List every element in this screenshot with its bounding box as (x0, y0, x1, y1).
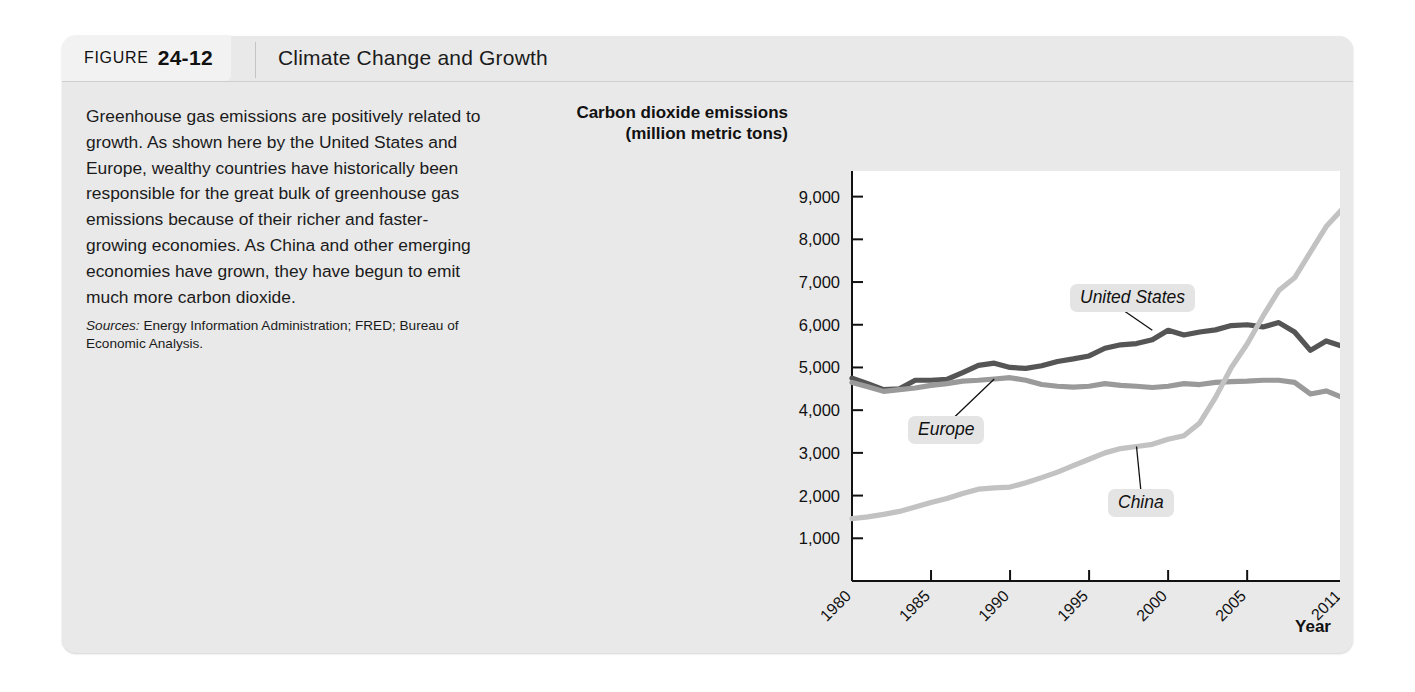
figure-number-tab: FIGURE 24-12 (62, 35, 231, 81)
y-axis-tick-label: 4,000 (799, 401, 840, 419)
y-axis-tick-label: 7,000 (799, 273, 840, 291)
x-axis-tick-label: 2005 (1212, 587, 1249, 624)
figure-tab-word: FIGURE (84, 49, 149, 67)
x-axis-tick-label: 1980 (817, 587, 854, 624)
x-axis-title: Year (1295, 617, 1331, 637)
series-label-europe: Europe (908, 416, 984, 444)
line-chart-svg: 9,0008,0007,0006,0005,0004,0003,0002,000… (510, 94, 1340, 639)
y-axis-tick-label: 5,000 (799, 358, 840, 376)
plot-background (852, 171, 1340, 581)
figure-panel: FIGURE 24-12 Climate Change and Growth G… (62, 36, 1353, 653)
caption-sources: Sources: Energy Information Administrati… (86, 317, 486, 353)
figure-caption: Greenhouse gas emissions are positively … (86, 104, 486, 353)
figure-title: Climate Change and Growth (278, 46, 548, 70)
x-axis-tick-label: 1990 (975, 587, 1012, 624)
y-axis-tick-label: 8,000 (799, 230, 840, 248)
series-label-china: China (1108, 489, 1174, 517)
series-label-united-states: United States (1070, 284, 1195, 312)
y-axis-tick-label: 2,000 (799, 487, 840, 505)
y-axis-tick-label: 3,000 (799, 444, 840, 462)
y-axis-tick-label: 6,000 (799, 316, 840, 334)
caption-body-text: Greenhouse gas emissions are positively … (86, 104, 486, 310)
x-axis-tick-label: 1995 (1054, 587, 1091, 624)
sources-text: Energy Information Administration; FRED;… (86, 318, 459, 351)
x-axis-tick-label: 1985 (896, 587, 933, 624)
sources-label: Sources: (86, 318, 140, 333)
x-axis-tick-label: 2000 (1133, 587, 1170, 624)
y-axis-tick-label: 9,000 (799, 188, 840, 206)
chart-container: Carbon dioxide emissions (million metric… (510, 94, 1340, 639)
figure-tab-number: 24-12 (158, 46, 213, 70)
header-divider (62, 81, 1353, 82)
y-axis-tick-label: 1,000 (799, 529, 840, 547)
figure-tab-divider (255, 42, 256, 78)
